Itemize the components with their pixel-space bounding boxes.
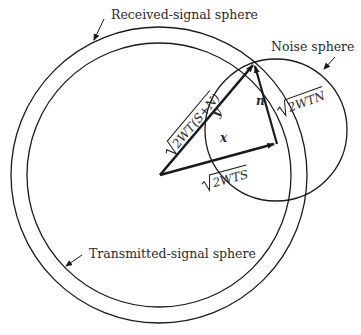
n-vector-label: n (256, 94, 265, 108)
transmitted-signal-sphere-label: Transmitted-signal sphere (89, 246, 256, 261)
noise-sphere-label: Noise sphere (271, 39, 354, 54)
signal-space-diagram: Received-signal sphere Noise sphere Tran… (0, 0, 361, 335)
received-signal-sphere-label: Received-signal sphere (111, 7, 258, 22)
noise-magnitude-label: 2WTN (275, 86, 327, 118)
x-vector-label: x (219, 131, 228, 145)
received-label-arrow (94, 19, 104, 40)
noise-label-arrow (324, 57, 335, 69)
svg-text:2WT(S+N): 2WT(S+N) (169, 91, 223, 152)
signal-magnitude-label: 2WTS (200, 165, 251, 193)
received-magnitude-label: 2WT(S+N) (161, 89, 223, 159)
received-vector (160, 65, 253, 175)
received-signal-sphere (11, 27, 307, 323)
svg-text:2WTS: 2WTS (210, 167, 250, 190)
transmitted-label-arrow (66, 255, 82, 266)
transmitted-signal-sphere (27, 43, 291, 307)
